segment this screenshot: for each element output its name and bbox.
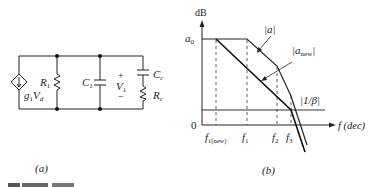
source-label: g1Vd — [24, 89, 44, 103]
y-axis-label: dB — [195, 7, 207, 18]
y-axis-arrow-icon — [200, 20, 205, 27]
tick-f1: f1 — [242, 131, 249, 145]
a-pointer-line — [259, 36, 271, 50]
bode-plot: dB a0 0 f (dec) |a| |anew| |1/β| f1(new)… — [185, 7, 366, 177]
anew-pointer-arrow-icon — [261, 76, 267, 81]
c1-label: C1 — [82, 76, 93, 90]
inverse-beta-label: |1/β| — [300, 94, 320, 106]
tick-f2: f2 — [272, 131, 279, 145]
tick-f1new: f1(new) — [205, 131, 226, 145]
junction-dot — [98, 54, 102, 58]
junction-dot — [98, 107, 102, 111]
curve-a-label: |a| — [264, 23, 276, 35]
figure-caption-partial — [22, 183, 48, 187]
figure-caption-partial — [8, 183, 20, 187]
curve-anew-label: |anew| — [292, 44, 315, 58]
zero-label: 0 — [191, 119, 197, 131]
rc-resistor-icon — [140, 86, 146, 101]
x-axis-label: f (dec) — [338, 120, 366, 132]
junction-dot — [55, 54, 59, 58]
rc-label: Rc — [152, 89, 164, 103]
x-axis-arrow-icon — [329, 123, 336, 128]
junction-dots — [55, 54, 102, 111]
r1-label: R1 — [39, 76, 51, 90]
figure-caption-partial — [52, 183, 74, 187]
anew-pointer-line — [264, 62, 292, 79]
r1-resistor-icon — [54, 74, 60, 90]
v1-minus-label: − — [118, 91, 124, 102]
junction-dot — [55, 107, 59, 111]
tick-f3: f3 — [286, 131, 293, 145]
cc-label: Cc — [153, 68, 164, 82]
caption-a: (a) — [35, 162, 48, 175]
caption-b: (b) — [262, 164, 275, 177]
a0-label: a0 — [185, 32, 195, 46]
figure-canvas: R1 g1Vd C1 + V1 − Cc Rc (a) — [0, 0, 374, 187]
